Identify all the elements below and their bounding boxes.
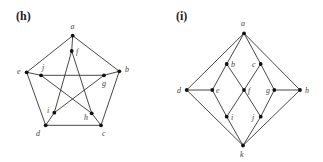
vertex-d	[185, 88, 189, 92]
node-labels-h: abcdefghij	[17, 22, 129, 138]
panel-label-i: (i)	[176, 9, 187, 23]
vertex-label-e: e	[17, 67, 21, 76]
vertex-label-d: d	[177, 86, 182, 95]
edge-i-f	[54, 51, 71, 113]
vertex-label-i: i	[231, 113, 233, 122]
vertex-label-a: a	[71, 22, 75, 31]
vertex-label-g: g	[102, 79, 106, 88]
edge-a-d	[187, 33, 244, 90]
vertex-g	[102, 73, 106, 77]
vertex-label-a: a	[241, 19, 245, 28]
vertex-j	[39, 73, 43, 77]
vertex-i	[52, 111, 56, 115]
vertex-a	[242, 31, 246, 35]
vertex-label-d: d	[36, 129, 41, 138]
vertex-j	[259, 115, 263, 119]
vertex-k	[241, 144, 245, 148]
vertex-f	[70, 49, 74, 53]
vertex-label-c: c	[252, 60, 256, 69]
vertex-label-k: k	[240, 150, 244, 159]
panel-i-diamond-graph: (i) abcdefghijk	[176, 9, 309, 159]
edge-b-g	[104, 71, 119, 75]
nodes-i	[185, 31, 302, 147]
panel-h-petersen-graph: (h) abcdefghij	[16, 9, 129, 138]
vertex-label-h: h	[84, 113, 88, 122]
edge-c-h	[92, 113, 101, 125]
vertex-h	[90, 111, 94, 115]
vertex-d	[44, 123, 48, 127]
vertex-label-j: j	[251, 113, 255, 122]
edge-f-i	[227, 90, 244, 117]
vertex-g	[272, 88, 276, 92]
panel-label-h: (h)	[16, 9, 31, 23]
edge-a-b	[73, 36, 120, 72]
vertex-c	[259, 62, 263, 66]
edge-f-h	[72, 51, 92, 113]
vertex-e	[25, 70, 29, 74]
edge-e-j	[27, 72, 41, 75]
vertex-label-b: b	[125, 65, 129, 74]
vertex-b	[117, 69, 121, 73]
edge-e-a	[27, 36, 73, 73]
vertex-label-e: e	[216, 86, 220, 95]
edge-i-k	[227, 117, 243, 146]
vertex-label-i: i	[47, 106, 49, 115]
edge-g-i	[54, 75, 104, 112]
vertex-h	[298, 88, 302, 92]
vertex-b	[225, 62, 229, 66]
vertex-label-b: b	[231, 60, 235, 69]
vertex-label-f: f	[76, 47, 80, 56]
edge-a-b	[227, 33, 244, 64]
edge-a-f	[72, 36, 73, 51]
vertex-f	[242, 88, 246, 92]
vertex-a	[71, 34, 75, 38]
vertex-label-g: g	[266, 86, 270, 95]
nodes-h	[25, 34, 121, 127]
graph-figure: (h) abcdefghij (i) abcdefghijk	[0, 0, 323, 162]
edge-d-e	[27, 72, 46, 125]
vertex-label-h: h	[305, 86, 309, 95]
vertex-label-f: f	[248, 86, 252, 95]
vertex-i	[225, 115, 229, 119]
vertex-label-c: c	[102, 129, 106, 138]
edge-b-f	[227, 64, 244, 90]
vertex-label-j: j	[41, 63, 45, 72]
edge-d-k	[187, 90, 243, 146]
vertex-c	[99, 123, 103, 127]
vertex-e	[210, 88, 214, 92]
